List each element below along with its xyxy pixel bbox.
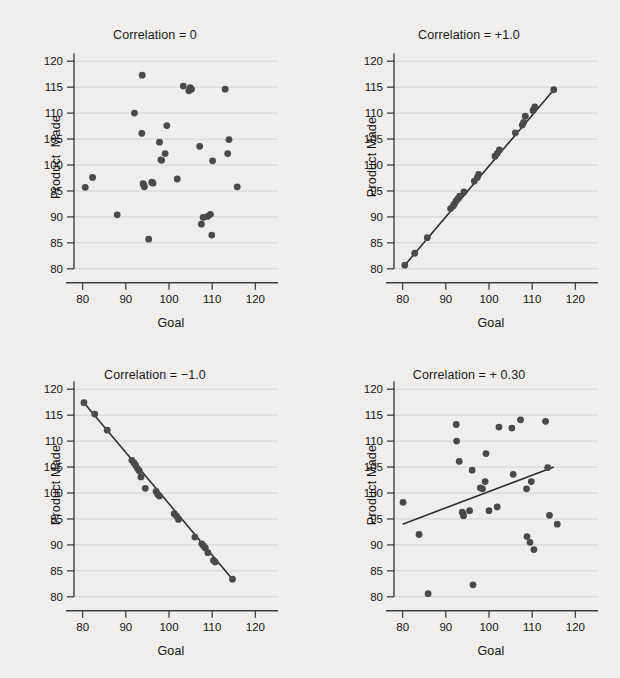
x-axis-tick-label: 100 (479, 293, 498, 305)
data-point (453, 421, 460, 428)
data-point (180, 83, 187, 90)
data-point (229, 576, 236, 583)
data-point (138, 130, 145, 137)
y-axis-label: Product Made (365, 425, 379, 545)
data-point (496, 424, 503, 431)
correlation-scatterplot-figure: Correlation = 0 Product Made 80859095100… (0, 0, 620, 678)
data-point (145, 236, 152, 243)
data-point (411, 250, 418, 257)
x-axis-tick-label: 80 (396, 621, 409, 633)
data-point (209, 157, 216, 164)
scatter-svg: 808590951001051101151208090100110120 (358, 378, 592, 616)
x-axis-tick-label: 110 (203, 293, 221, 305)
regression-line (403, 467, 554, 524)
y-axis-tick-label: 80 (50, 591, 63, 603)
data-point (517, 416, 524, 423)
y-axis-label: Product Made (49, 97, 63, 217)
data-point (456, 458, 463, 465)
panel-title: Correlation = +1.0 (318, 28, 620, 42)
y-axis-tick-label: 115 (45, 409, 63, 421)
data-point (208, 232, 215, 239)
data-point (222, 86, 229, 93)
y-axis-tick-label: 120 (364, 55, 383, 67)
y-axis-tick-label: 85 (370, 237, 383, 249)
data-point (479, 485, 486, 492)
data-point (512, 129, 519, 136)
panel-title: Correlation = 0 (0, 28, 310, 42)
data-point (156, 493, 163, 500)
data-point (139, 72, 146, 79)
data-point (192, 534, 199, 541)
data-point (131, 110, 138, 117)
x-axis-tick-label: 110 (523, 621, 541, 633)
x-axis-tick-label: 80 (76, 293, 89, 305)
data-point (470, 581, 477, 588)
data-point (482, 478, 489, 485)
panel-correlation-0: Correlation = 0 Product Made 80859095100… (0, 0, 310, 340)
x-axis-tick-label: 120 (566, 621, 585, 633)
data-point (188, 86, 195, 93)
panel-correlation-plus-030: Correlation = + 0.30 Product Made 808590… (310, 340, 620, 678)
panel-correlation-minus-1: Correlation = −1.0 Product Made 80859095… (0, 340, 310, 678)
x-axis-tick-label: 120 (246, 621, 265, 633)
x-axis-tick-label: 100 (479, 621, 498, 633)
x-axis-label: Goal (386, 316, 596, 330)
x-axis-label: Goal (66, 644, 276, 658)
y-axis-tick-label: 120 (44, 55, 63, 67)
data-point (138, 474, 145, 481)
data-point (528, 478, 535, 485)
scatter-svg: 808590951001051101151208090100110120 (38, 378, 272, 616)
data-point (226, 136, 233, 143)
x-axis-tick-label: 110 (523, 293, 541, 305)
y-axis-label: Product Made (49, 425, 63, 545)
y-axis-tick-label: 85 (50, 237, 63, 249)
data-point (175, 516, 182, 523)
data-point (531, 546, 538, 553)
data-point (198, 221, 205, 228)
data-point (224, 150, 231, 157)
data-point (204, 549, 211, 556)
y-axis-label: Product Made (365, 97, 379, 217)
y-axis-tick-label: 115 (45, 81, 63, 93)
x-axis-tick-label: 120 (566, 293, 585, 305)
data-point (104, 427, 111, 434)
data-point (531, 103, 538, 110)
data-point (542, 418, 549, 425)
y-axis-tick-label: 85 (50, 565, 63, 577)
y-axis-tick-label: 115 (365, 409, 383, 421)
data-point (546, 512, 553, 519)
x-axis-tick-label: 90 (119, 293, 132, 305)
data-point (158, 157, 165, 164)
data-point (150, 180, 157, 187)
plot-area: Product Made 808590951001051101151208090… (358, 50, 592, 288)
x-axis-tick-label: 120 (246, 293, 265, 305)
data-point (460, 512, 467, 519)
data-point (483, 450, 490, 457)
data-point (496, 147, 503, 154)
y-axis-tick-label: 80 (370, 591, 383, 603)
data-point (401, 262, 408, 269)
x-axis-tick-label: 110 (203, 621, 221, 633)
x-axis-tick-label: 90 (439, 293, 452, 305)
data-point (416, 531, 423, 538)
data-point (527, 539, 534, 546)
data-point (486, 507, 493, 514)
data-point (466, 507, 473, 514)
data-point (212, 559, 219, 566)
y-axis-tick-label: 80 (50, 263, 63, 275)
plot-area: Product Made 808590951001051101151208090… (358, 378, 592, 616)
data-point (550, 86, 557, 93)
data-point (523, 485, 530, 492)
data-point (554, 521, 561, 528)
data-point (81, 399, 88, 406)
scatter-svg: 808590951001051101151208090100110120 (38, 50, 272, 288)
data-point (510, 471, 517, 478)
data-point (494, 504, 501, 511)
y-axis-tick-label: 85 (370, 565, 383, 577)
y-axis-tick-label: 120 (364, 383, 383, 395)
data-point (174, 176, 181, 183)
data-point (453, 438, 460, 445)
data-point (163, 122, 170, 129)
data-point (461, 189, 468, 196)
data-point (142, 485, 149, 492)
